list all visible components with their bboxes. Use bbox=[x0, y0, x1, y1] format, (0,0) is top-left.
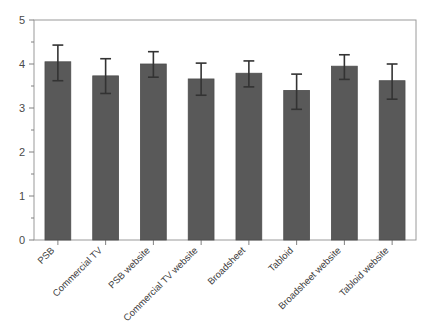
bar bbox=[45, 62, 71, 240]
x-axis-ticks bbox=[58, 240, 392, 245]
x-tick-label: Tabloid bbox=[266, 245, 295, 274]
bar bbox=[284, 90, 310, 240]
plot-frame bbox=[34, 20, 416, 240]
x-tick-label-group: PSB website bbox=[106, 245, 152, 291]
x-tick-label-group: Broadsheet bbox=[205, 244, 247, 286]
y-tick-label: 4 bbox=[19, 58, 25, 70]
y-axis: 012345 bbox=[19, 14, 34, 246]
x-tick-label-group: Tabloid website bbox=[337, 245, 391, 299]
bar-series bbox=[45, 62, 405, 240]
y-tick-label: 0 bbox=[19, 234, 25, 246]
y-tick-label: 5 bbox=[19, 14, 25, 26]
x-tick-label-group: Tabloid bbox=[266, 245, 295, 274]
x-tick-label: Broadsheet bbox=[205, 244, 247, 286]
bar bbox=[93, 76, 119, 240]
bar bbox=[379, 81, 405, 240]
y-tick-label: 3 bbox=[19, 102, 25, 114]
bar bbox=[236, 73, 262, 240]
x-tick-label-group: Commercial TV bbox=[50, 244, 104, 298]
bar-chart-figure: 012345 PSBCommercial TVPSB websiteCommer… bbox=[0, 0, 433, 330]
plot-area-border bbox=[34, 20, 416, 240]
bar bbox=[140, 64, 166, 240]
bar bbox=[331, 66, 357, 240]
x-axis-tick-labels: PSBCommercial TVPSB websiteCommercial TV… bbox=[35, 244, 390, 323]
chart-canvas: 012345 PSBCommercial TVPSB websiteCommer… bbox=[0, 0, 433, 330]
y-tick-label: 1 bbox=[19, 190, 25, 202]
y-tick-label: 2 bbox=[19, 146, 25, 158]
x-tick-label: Commercial TV bbox=[50, 244, 104, 298]
x-tick-label-group: PSB bbox=[35, 245, 56, 266]
x-tick-label: PSB website bbox=[106, 245, 152, 291]
x-tick-label: PSB bbox=[35, 245, 56, 266]
bar bbox=[188, 79, 214, 240]
x-tick-label: Tabloid website bbox=[337, 245, 391, 299]
